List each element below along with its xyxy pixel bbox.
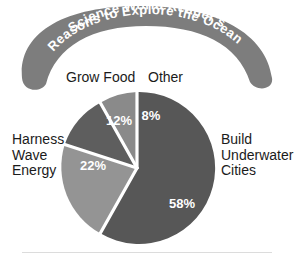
slice-value-other: 8%	[142, 108, 161, 123]
category-label-other: Other	[148, 70, 183, 86]
bottom-divider	[22, 252, 272, 253]
category-label-grow-food: Grow Food	[66, 70, 135, 86]
pie-graphic: 58% 22% 12% 8%	[0, 0, 295, 260]
slice-value-grow-food: 12%	[106, 113, 132, 128]
category-label-build-underwater-cities: Build Underwater Cities	[221, 132, 295, 179]
slice-value-build-underwater-cities: 58%	[169, 196, 195, 211]
category-label-harness-wave-energy: Harness Wave Energy	[12, 132, 86, 179]
pie-chart-figure: Science World Reader's Reasons to Explor…	[0, 0, 295, 260]
